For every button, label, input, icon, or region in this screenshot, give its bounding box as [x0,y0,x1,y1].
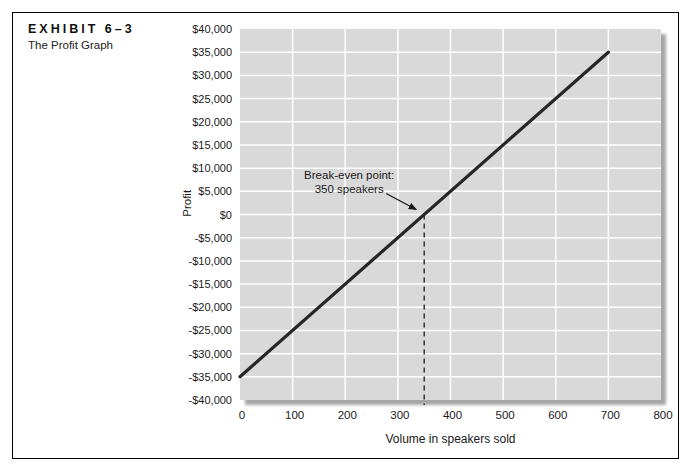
y-axis-tick-label: -$35,000 [189,371,232,383]
x-axis-tick-label: 300 [390,409,409,421]
y-axis-tick-label: $40,000 [192,23,232,35]
y-axis-title: Profit [181,189,193,217]
y-axis-tick-label: $20,000 [192,116,232,128]
x-axis-tick-label: 700 [601,409,620,421]
x-axis-tick-label: 200 [338,409,357,421]
y-axis-tick-label: -$25,000 [189,324,232,336]
y-axis-tick-label: -$20,000 [189,301,232,313]
x-axis-tick-label: 600 [548,409,567,421]
break-even-annotation-line1: Break-even point: [304,169,394,181]
y-axis-tick-label: -$5,000 [195,232,232,244]
profit-chart: $40,000$35,000$30,000$25,000$20,000$15,0… [0,0,692,475]
x-axis-tick-label: 100 [285,409,304,421]
x-axis-tick-label: 0 [239,409,245,421]
y-axis-tick-label: $35,000 [192,46,232,58]
y-axis-tick-label: $15,000 [192,139,232,151]
x-axis-tick-label: 400 [443,409,462,421]
y-axis-tick-label: $25,000 [192,93,232,105]
y-axis-tick-label: $10,000 [192,162,232,174]
x-axis-title: Volume in speakers sold [385,432,515,446]
break-even-annotation-line2: 350 speakers [315,183,384,195]
y-axis-tick-label: -$40,000 [189,394,232,406]
y-axis-tick-label: $30,000 [192,69,232,81]
y-axis-tick-label: -$15,000 [189,278,232,290]
y-axis-tick-label: $0 [220,209,232,221]
y-axis-tick-label: -$10,000 [189,255,232,267]
y-axis-tick-label: -$30,000 [189,348,232,360]
x-axis-tick-label: 500 [496,409,515,421]
y-axis-tick-label: $5,000 [198,185,232,197]
x-axis-tick-label: 800 [653,409,672,421]
